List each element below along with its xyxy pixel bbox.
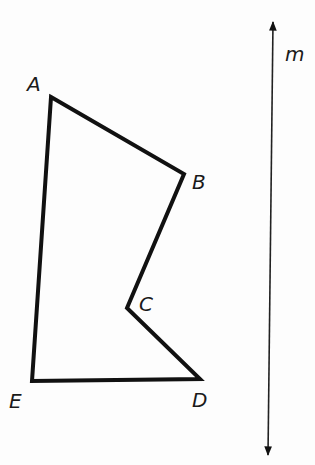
- vertex-label-a: A: [27, 74, 41, 94]
- vertex-label-d: D: [192, 390, 207, 410]
- vertex-label-b: B: [192, 172, 206, 192]
- diagram-canvas: [0, 0, 315, 465]
- vertex-label-c: C: [139, 294, 153, 314]
- line-m: [268, 22, 273, 455]
- line-label-m: m: [285, 44, 304, 64]
- polygon-abcde: [32, 97, 200, 381]
- vertex-label-e: E: [9, 391, 22, 411]
